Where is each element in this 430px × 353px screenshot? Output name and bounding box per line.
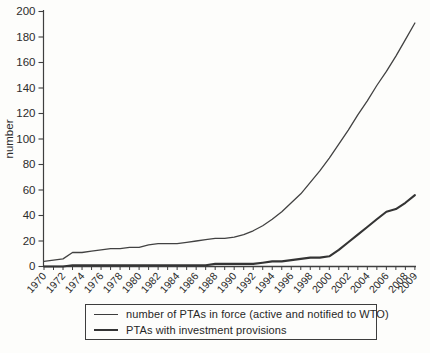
legend-label-ptas-in-force: number of PTAs in force (active and noti…	[126, 308, 389, 320]
y-tick-label: 200	[16, 5, 35, 17]
x-tick-label: 2006	[366, 270, 391, 296]
y-tick-label: 20	[23, 235, 36, 247]
chart-canvas: 0204060801001201401601802001970197219741…	[0, 0, 430, 353]
x-tick-label: 1990	[214, 270, 239, 296]
x-tick-label: 1998	[290, 270, 315, 296]
y-tick-label: 140	[16, 82, 35, 94]
y-tick-label: 100	[16, 133, 35, 145]
y-tick-label: 60	[23, 184, 36, 196]
line-swatch-ptas-in-force	[94, 314, 118, 315]
x-tick-label: 1986	[176, 270, 201, 296]
x-tick-label: 2004	[347, 270, 372, 296]
y-tick-label: 160	[16, 56, 35, 68]
y-tick-label: 120	[16, 107, 35, 119]
y-tick-label: 0	[29, 260, 35, 272]
series-line-investment-provisions	[44, 195, 415, 266]
chart-legend: number of PTAs in force (active and noti…	[85, 304, 377, 340]
x-tick-label: 1982	[138, 270, 163, 296]
legend-label-investment-provisions: PTAs with investment provisions	[126, 324, 287, 336]
y-tick-label: 180	[16, 31, 35, 43]
legend-item-ptas-in-force: number of PTAs in force (active and noti…	[94, 307, 376, 321]
x-tick-label: 1988	[195, 270, 220, 296]
x-tick-label: 1976	[81, 270, 106, 296]
x-tick-label: 1974	[62, 270, 87, 296]
legend-item-investment-provisions: PTAs with investment provisions	[94, 323, 376, 337]
y-tick-label: 80	[23, 158, 36, 170]
x-tick-label: 2000	[309, 270, 334, 296]
y-tick-label: 40	[23, 209, 36, 221]
x-tick-label: 1992	[233, 270, 258, 296]
x-tick-label: 1972	[43, 270, 68, 296]
x-tick-label: 1994	[252, 270, 277, 296]
y-axis-title: number	[3, 119, 15, 158]
x-tick-label: 1980	[119, 270, 144, 296]
line-swatch-investment-provisions	[94, 329, 118, 331]
x-tick-label: 1970	[24, 270, 49, 296]
series-line-ptas-in-force	[44, 23, 415, 261]
x-tick-label: 1978	[100, 270, 125, 296]
pta-line-chart-figure: 0204060801001201401601802001970197219741…	[0, 0, 430, 353]
x-tick-label: 2002	[328, 270, 353, 296]
x-tick-label: 1996	[271, 270, 296, 296]
x-tick-label: 1984	[157, 270, 182, 296]
